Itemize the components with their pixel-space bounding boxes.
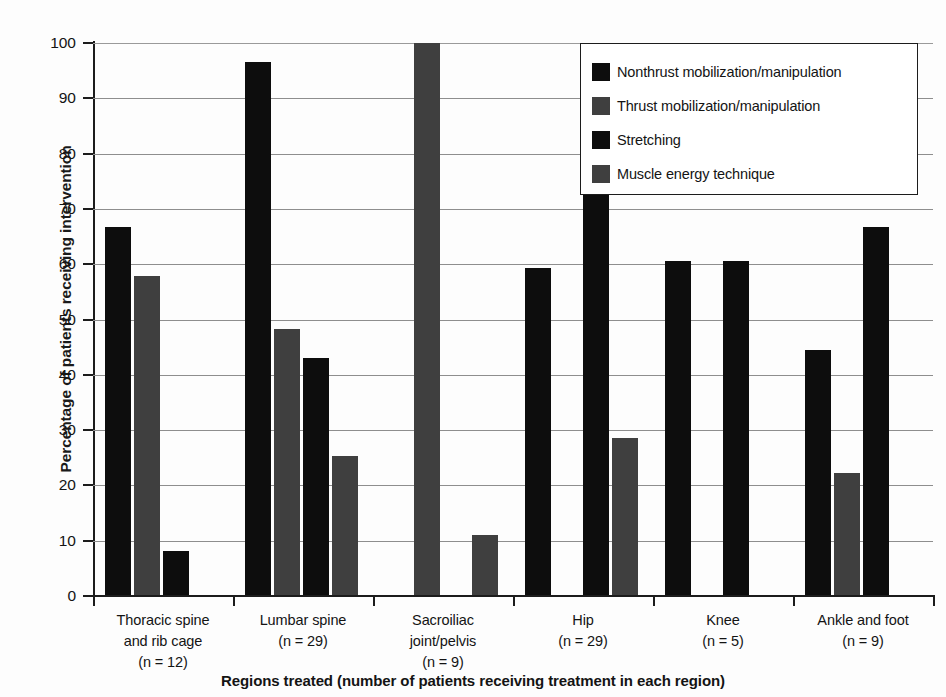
bar <box>805 350 831 596</box>
legend-swatch-icon <box>592 131 610 149</box>
x-category-label-line: (n = 29) <box>233 631 373 652</box>
x-category-label-line: Hip <box>513 610 653 631</box>
x-tick-mark-0 <box>93 596 95 606</box>
x-tick-mark-3 <box>513 596 515 606</box>
x-category-label-line: (n = 5) <box>653 631 793 652</box>
x-category-label-line: (n = 9) <box>373 652 513 673</box>
legend-item[interactable]: Stretching <box>592 123 908 157</box>
y-tick-label-100: 100 <box>20 34 76 52</box>
legend-item[interactable]: Nonthrust mobilization/manipulation <box>592 55 908 89</box>
bar <box>472 535 498 596</box>
x-category-label-line: (n = 9) <box>793 631 933 652</box>
x-tick-mark-6 <box>933 596 935 606</box>
x-category-label-line: Ankle and foot <box>793 610 933 631</box>
x-category-label: Lumbar spine(n = 29) <box>233 610 373 652</box>
bar <box>163 551 189 596</box>
bar <box>414 43 440 596</box>
x-tick-mark-4 <box>653 596 655 606</box>
x-tick-mark-1 <box>233 596 235 606</box>
legend-item-label: Thrust mobilization/manipulation <box>617 98 820 114</box>
x-category-label-line: (n = 12) <box>93 652 233 673</box>
x-category-label-line: Sacroiliac <box>373 610 513 631</box>
x-category-label: Sacroiliacjoint/pelvis(n = 9) <box>373 610 513 673</box>
bar <box>274 329 300 596</box>
bar <box>105 227 131 596</box>
y-tick-label-30: 30 <box>20 421 76 439</box>
x-axis-title: Regions treated (number of patients rece… <box>0 672 946 689</box>
x-tick-mark-5 <box>793 596 795 606</box>
x-category-label-line: Thoracic spine <box>93 610 233 631</box>
x-category-label: Knee(n = 5) <box>653 610 793 652</box>
legend-item-label: Nonthrust mobilization/manipulation <box>617 64 841 80</box>
bar <box>332 456 358 596</box>
gridline-60 <box>93 264 933 265</box>
x-category-label-line: Knee <box>653 610 793 631</box>
x-category-label: Ankle and foot(n = 9) <box>793 610 933 652</box>
x-category-label: Hip(n = 29) <box>513 610 653 652</box>
y-tick-label-20: 20 <box>20 476 76 494</box>
bar <box>665 261 691 596</box>
y-tick-label-90: 90 <box>20 89 76 107</box>
bar <box>612 438 638 596</box>
legend: Nonthrust mobilization/manipulationThrus… <box>580 43 918 195</box>
bar <box>303 358 329 596</box>
legend-item-label: Muscle energy technique <box>617 166 775 182</box>
x-category-label-line: joint/pelvis <box>373 631 513 652</box>
y-tick-label-50: 50 <box>20 311 76 329</box>
x-category-label-line: Lumbar spine <box>233 610 373 631</box>
legend-item[interactable]: Muscle energy technique <box>592 157 908 191</box>
bar <box>525 268 551 596</box>
bar <box>245 62 271 596</box>
bar <box>134 276 160 596</box>
legend-swatch-icon <box>592 165 610 183</box>
y-tick-label-40: 40 <box>20 366 76 384</box>
legend-item-label: Stretching <box>617 132 681 148</box>
gridline-70 <box>93 209 933 210</box>
x-tick-mark-2 <box>373 596 375 606</box>
y-axis-title: Percentage of patients receiving interve… <box>57 29 75 589</box>
bar <box>834 473 860 596</box>
y-tick-label-70: 70 <box>20 200 76 218</box>
bar <box>723 261 749 596</box>
bar <box>863 227 889 596</box>
legend-rows: Nonthrust mobilization/manipulationThrus… <box>592 55 908 191</box>
gridline-50 <box>93 320 933 321</box>
legend-swatch-icon <box>592 97 610 115</box>
y-tick-label-80: 80 <box>20 145 76 163</box>
y-tick-label-60: 60 <box>20 255 76 273</box>
legend-swatch-icon <box>592 63 610 81</box>
x-category-label-line: (n = 29) <box>513 631 653 652</box>
y-tick-label-0: 0 <box>20 587 76 605</box>
y-tick-label-10: 10 <box>20 532 76 550</box>
x-category-label: Thoracic spineand rib cage(n = 12) <box>93 610 233 673</box>
legend-item[interactable]: Thrust mobilization/manipulation <box>592 89 908 123</box>
bar-chart-figure: Percentage of patients receiving interve… <box>0 0 946 697</box>
x-category-label-line: and rib cage <box>93 631 233 652</box>
